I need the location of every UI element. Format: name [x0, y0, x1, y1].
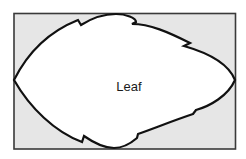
leaf-label: Leaf — [0, 80, 246, 94]
